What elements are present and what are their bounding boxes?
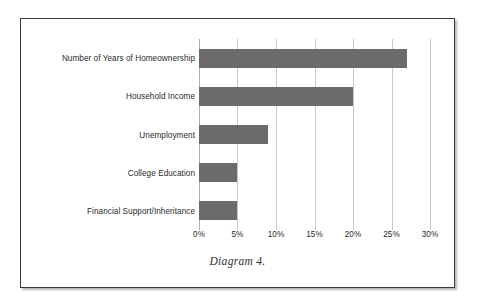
- x-tick-label: 25%: [383, 230, 399, 239]
- bar-series: Number of Years of HomeownershipHousehol…: [199, 39, 430, 230]
- category-label: Household Income: [126, 92, 195, 101]
- x-tick-label: 0%: [193, 230, 205, 239]
- figure-frame: Number of Years of HomeownershipHousehol…: [20, 18, 455, 288]
- x-tick-label: 10%: [268, 230, 284, 239]
- category-label: Number of Years of Homeownership: [62, 54, 195, 63]
- bar-row: College Education: [199, 163, 237, 182]
- x-tick-label: 20%: [345, 230, 361, 239]
- bar: [199, 163, 237, 182]
- x-axis-tick-labels: 0%5%10%15%20%25%30%: [199, 230, 430, 246]
- gridline-30: [430, 39, 431, 230]
- category-label: College Education: [128, 168, 195, 177]
- category-label: Unemployment: [139, 130, 195, 139]
- x-tick-label: 15%: [306, 230, 322, 239]
- bar-row: Financial Support/Inheritance: [199, 201, 237, 220]
- bar: [199, 87, 353, 106]
- bar: [199, 49, 407, 68]
- x-tick-label: 30%: [422, 230, 438, 239]
- x-tick-label: 5%: [232, 230, 244, 239]
- bar-row: Household Income: [199, 87, 353, 106]
- bar-row: Unemployment: [199, 125, 268, 144]
- bar: [199, 201, 237, 220]
- bar: [199, 125, 268, 144]
- chart-plot-area: Number of Years of HomeownershipHousehol…: [199, 39, 430, 230]
- bar-row: Number of Years of Homeownership: [199, 49, 407, 68]
- figure-caption: Diagram 4.: [21, 255, 454, 267]
- category-label: Financial Support/Inheritance: [87, 206, 195, 215]
